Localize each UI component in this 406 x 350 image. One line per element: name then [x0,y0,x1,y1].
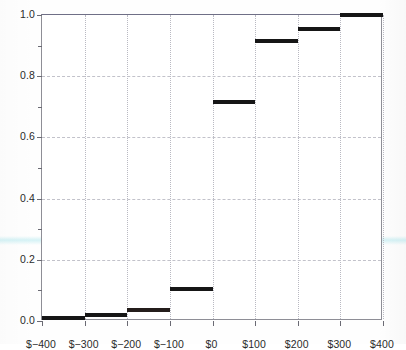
x-tick-label: $−400 [26,338,56,350]
x-tick-mark [213,321,214,326]
vertical-gridline [383,15,384,319]
y-tick-label: 0.0 [20,314,35,326]
x-tick-mark [255,321,256,326]
x-tick-label: $300 [327,338,351,350]
y-tick-label: 0.2 [20,253,35,265]
x-tick-label: $0 [206,338,218,350]
x-tick-label: $−100 [154,338,184,350]
x-tick-label: $200 [285,338,309,350]
x-tick-mark [170,321,171,326]
x-tick-mark [42,321,43,326]
x-tick-label: $−300 [69,338,99,350]
x-tick-mark [85,321,86,326]
y-tick-label: 0.8 [20,69,35,81]
x-tick-mark [383,321,384,326]
x-tick-mark [298,321,299,326]
y-tick-label: 0.6 [20,130,35,142]
x-tick-label: $100 [242,338,266,350]
y-axis-tick-labels: 0.00.20.40.60.81.0 [0,14,35,320]
x-axis-tick-labels: $−400$−300$−200$−100$0$100$200$300$400 [41,14,382,320]
x-tick-label: $400 [370,338,394,350]
x-tick-mark [127,321,128,326]
y-tick-label: 0.4 [20,192,35,204]
x-tick-mark [340,321,341,326]
y-tick-mark [37,321,42,322]
y-tick-label: 1.0 [20,8,35,20]
x-tick-label: $−200 [111,338,141,350]
